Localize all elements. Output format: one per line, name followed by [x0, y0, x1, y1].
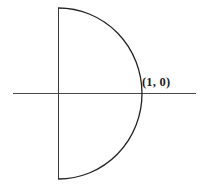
geometry-figure [0, 0, 204, 187]
point-label-1-0: (1, 0) [142, 76, 170, 89]
figure-canvas: (1, 0) [0, 0, 204, 187]
